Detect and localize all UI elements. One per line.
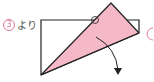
origami-diagram	[0, 0, 154, 82]
arrow-head-icon	[114, 68, 122, 75]
next-step-marker-partial-icon	[147, 28, 153, 40]
